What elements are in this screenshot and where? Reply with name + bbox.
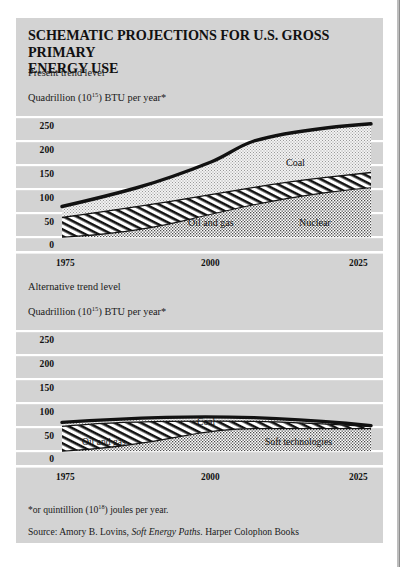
source-prefix: Source: Amory B. Lovins, [28,526,131,537]
figure-panel: SCHEMATIC PROJECTIONS FOR U.S. GROSS PRI… [16,18,383,543]
page-root: SCHEMATIC PROJECTIONS FOR U.S. GROSS PRI… [0,0,408,567]
chart-1-xtick-2000: 2000 [201,258,220,268]
chart-1-unit-suffix: ) BTU per year* [98,92,166,103]
chart-2-svg: 250 200 150 100 50 0 Coal Oil and gas So… [16,324,383,474]
chart-1-ytick-50: 50 [44,216,54,227]
footnote-prefix: *or quintillion (10 [28,504,98,515]
chart-1-label-nuclear: Nuclear [299,217,331,228]
chart-2-ytick-100: 100 [40,406,55,417]
chart-2-unit-suffix: ) BTU per year* [98,306,166,317]
chart-1-xaxis: 1975 2000 2025 [16,258,383,272]
footnote-suffix: ) joules per year. [105,504,169,515]
chart-1-ytick-labels: 250 200 150 100 50 0 [40,120,55,250]
chart-2-xtick-2025: 2025 [349,472,368,482]
chart-2-unit-label: Quadrillion (1015) BTU per year* [28,306,166,318]
chart-1-unit-label: Quadrillion (1015) BTU per year* [28,92,166,104]
chart-1-svg: 250 200 150 100 50 0 Coal Oil and gas Nu… [16,110,383,260]
chart-2-ytick-labels: 250 200 150 100 50 0 [40,334,55,464]
chart-1-ytick-0: 0 [49,239,54,250]
chart-2-label-oil-and-gas: Oil and gas [82,436,126,447]
source-credit: Source: Amory B. Lovins, Soft Energy Pat… [28,526,299,537]
page-gutter-rule-inner [399,0,400,567]
chart-1-ytick-150: 150 [40,168,55,179]
chart-1-label-coal: Coal [286,157,305,168]
chart-1-ytick-200: 200 [40,144,55,155]
chart-2-label-coal: Coal [197,416,215,427]
footnote-unit: *or quintillion (1018) joules per year. [28,504,168,515]
chart-2-xtick-2000: 2000 [201,472,220,482]
source-suffix: . Harper Colophon Books [200,526,299,537]
chart-2-ytick-200: 200 [40,358,55,369]
chart-2-xaxis: 1975 2000 2025 [16,472,383,486]
chart-2-xtick-1975: 1975 [56,472,75,482]
chart-2-ytick-150: 150 [40,382,55,393]
chart-2-unit-prefix: Quadrillion (10 [28,306,92,317]
chart-1-xtick-2025: 2025 [349,258,368,268]
chart-2-label-soft-technologies: Soft technologies [265,436,332,447]
chart-1-plot: 250 200 150 100 50 0 Coal Oil and gas Nu… [16,110,383,260]
chart-1-subtitle: Present trend level [28,67,105,79]
chart-1-xtick-1975: 1975 [56,258,75,268]
chart-2-ytick-250: 250 [40,334,55,345]
chart-1-ytick-250: 250 [40,120,55,131]
chart-2-ytick-0: 0 [49,453,54,464]
chart-2-plot: 250 200 150 100 50 0 Coal Oil and gas So… [16,324,383,474]
source-title: Soft Energy Paths [131,526,200,537]
page-title-line-1: SCHEMATIC PROJECTIONS FOR U.S. GROSS PRI… [28,27,329,60]
chart-1-ytick-100: 100 [40,192,55,203]
chart-1-label-oil-and-gas: Oil and gas [188,217,234,228]
chart-1-unit-prefix: Quadrillion (10 [28,92,92,103]
chart-2-ytick-50: 50 [44,430,54,441]
chart-2-subtitle: Alternative trend level [28,281,121,293]
